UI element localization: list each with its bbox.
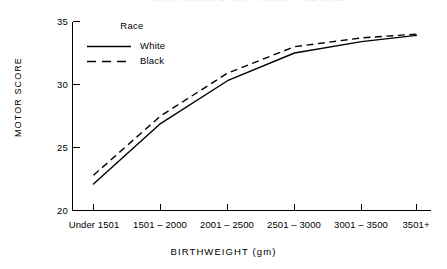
legend-label-black: Black [140,55,164,66]
legend-swatch-solid-icon [86,41,132,51]
legend-item-white: White [86,38,216,53]
legend-label-white: White [140,40,165,51]
y-tick-label-30: 30 [44,79,68,90]
x-axis-title: BIRTHWEIGHT (gm) [0,246,447,257]
legend-item-black: Black [86,53,216,68]
y-tick-label-35: 35 [44,16,68,27]
chart-figure: MOTOR SCORE BY BIRTHWEIGHT AND RACE 35 3… [0,0,447,269]
legend-swatch-dashed-icon [86,56,132,66]
y-tick-label-25: 25 [44,142,68,153]
x-axis-ticks [94,204,417,211]
legend: Race White Black [86,20,216,68]
x-tick-label-3501-plus: 3501+ [386,219,446,230]
y-axis-ticks [73,22,80,211]
legend-title: Race [86,20,178,31]
y-tick-label-20: 20 [44,205,68,216]
y-axis-title: MOTOR SCORE [13,37,23,157]
